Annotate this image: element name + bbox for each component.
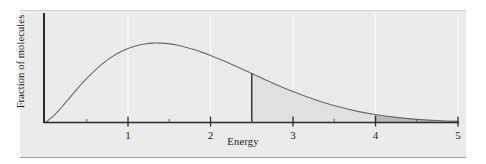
- figure-container: Fraction of molecules Energy 12345: [0, 0, 486, 164]
- light-shaded-region: [252, 73, 458, 122]
- x-axis-tick-labels-group: 12345: [125, 129, 461, 141]
- x-tick-label-4: 4: [373, 129, 379, 141]
- chart-plot: 12345: [0, 0, 486, 164]
- x-tick-label-5: 5: [455, 129, 461, 141]
- x-tick-label-3: 3: [290, 129, 296, 141]
- axes-group: [43, 13, 459, 123]
- x-tick-label-2: 2: [208, 129, 214, 141]
- x-tick-label-1: 1: [125, 129, 131, 141]
- shaded-areas-group: [252, 73, 458, 122]
